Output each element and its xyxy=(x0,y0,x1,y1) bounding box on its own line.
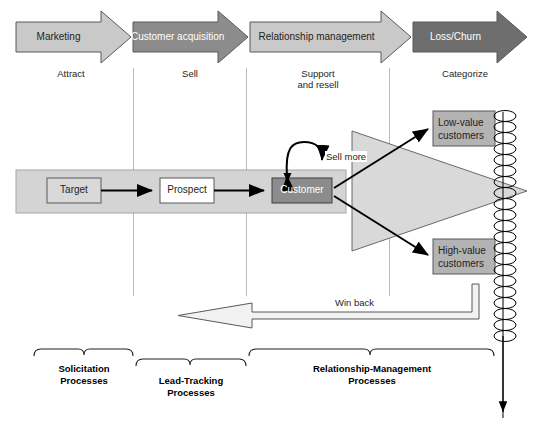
phase-sublabel-categorize: Categorize xyxy=(420,68,510,79)
bracket-label-lead-tracking-line2: Processes xyxy=(131,387,251,399)
bracket-label-relationship-management: Relationship-Management Processes xyxy=(252,363,492,387)
churn-coil xyxy=(494,111,516,419)
outcome-label-low-value-line2: customers xyxy=(438,129,495,142)
phase-label-loss-churn: Loss/Churn xyxy=(413,31,498,42)
phase-label-customer-acquisition: Customer acquisition xyxy=(131,31,220,42)
phase-label-marketing: Marketing xyxy=(16,31,101,42)
phase-label-relationship-management: Relationship management xyxy=(250,31,383,42)
sell-more-label: Sell more xyxy=(325,151,367,162)
flow-box-label-target: Target xyxy=(47,184,101,195)
outcome-label-high-value-line2: customers xyxy=(438,257,495,270)
phase-sublabel-sell: Sell xyxy=(145,68,235,79)
bracket-label-lead-tracking: Lead-Tracking Processes xyxy=(131,375,251,399)
flow-box-label-customer: Customer xyxy=(272,184,332,195)
bracket-label-lead-tracking-line1: Lead-Tracking xyxy=(131,375,251,387)
bracket-label-solicitation-line2: Processes xyxy=(24,375,144,387)
outcome-label-low-value-line1: Low-value xyxy=(438,116,495,129)
phase-sublabel-support-line2: and resell xyxy=(273,79,363,90)
outcome-label-high-value: High-value customers xyxy=(433,244,495,270)
bracket-label-solicitation: Solicitation Processes xyxy=(24,363,144,387)
phase-sublabel-support-line1: Support xyxy=(273,68,363,79)
diagram-canvas: Marketing Customer acquisition Relations… xyxy=(0,0,543,424)
outcome-label-high-value-line1: High-value xyxy=(438,244,495,257)
phase-sublabel-attract: Attract xyxy=(26,68,116,79)
phase-sublabel-support: Support and resell xyxy=(273,68,363,90)
flow-box-label-prospect: Prospect xyxy=(160,184,214,195)
diagram-svg xyxy=(0,0,543,424)
win-back-arrow xyxy=(178,284,479,328)
bracket-label-solicitation-line1: Solicitation xyxy=(24,363,144,375)
win-back-label: Win back xyxy=(333,297,376,308)
segmentation-wedge xyxy=(352,131,527,251)
bracket-label-relationship-management-line2: Processes xyxy=(252,375,492,387)
bracket-label-relationship-management-line1: Relationship-Management xyxy=(252,363,492,375)
outcome-label-low-value: Low-value customers xyxy=(433,116,495,142)
